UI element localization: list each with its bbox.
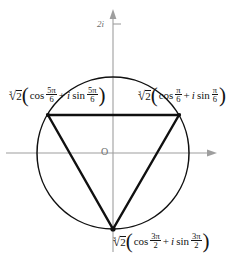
angle-denominator-bottom-cos: 2: [150, 241, 161, 250]
radical-sign-bottom: √: [113, 234, 120, 249]
angle-denominator-left-sin: 6: [87, 95, 98, 104]
cos-left: cos: [29, 90, 46, 101]
cube-root-radical-right: 3√2: [135, 89, 151, 102]
real-axis-arrowhead: [207, 150, 217, 157]
root-label-bottom: 3√2(cos3π2+isin3π2): [110, 232, 210, 251]
imaginary-axis-arrowhead: [110, 9, 117, 19]
plus-sign-bottom: +: [162, 236, 170, 247]
angle-denominator-bottom-sin: 2: [191, 241, 202, 250]
angle-denominator-right-cos: 6: [175, 95, 181, 104]
open-paren-bottom: (: [126, 234, 133, 249]
plus-sign-right: +: [183, 90, 191, 101]
radical-sign-left: √: [9, 88, 16, 103]
diagram-canvas: [0, 0, 241, 257]
sin-bottom: sin: [175, 236, 190, 247]
angle-fraction-right-sin: π6: [212, 86, 218, 105]
imaginary-axis-label: 2i: [97, 19, 104, 29]
cos-bottom: cos: [133, 236, 150, 247]
angle-fraction-bottom-cos: 3π2: [150, 232, 161, 251]
plus-sign-left: +: [58, 90, 66, 101]
open-paren-right: (: [151, 88, 158, 103]
angle-fraction-bottom-sin: 3π2: [191, 232, 202, 251]
origin-label: O: [101, 146, 108, 157]
angle-denominator-right-sin: 6: [212, 95, 218, 104]
root-label-left: 3√2(cos5π6+isin5π6): [6, 86, 106, 105]
angle-fraction-left-sin: 5π6: [87, 86, 98, 105]
close-paren-bottom: ): [203, 234, 210, 249]
angle-fraction-left-cos: 5π6: [46, 86, 57, 105]
complex-roots-diagram: 2i O 3√2(cos5π6+isin5π6) 3√2(cosπ6+isinπ…: [0, 0, 241, 257]
root-point-left: [46, 113, 50, 117]
open-paren-left: (: [22, 88, 29, 103]
root-point-bottom: [110, 226, 115, 231]
angle-fraction-right-cos: π6: [175, 86, 181, 105]
angle-denominator-left-cos: 6: [46, 95, 57, 104]
close-paren-left: ): [99, 88, 106, 103]
sin-left: sin: [71, 90, 86, 101]
cube-root-radical-left: 3√2: [6, 89, 22, 102]
cube-root-radical-bottom: 3√2: [110, 235, 126, 248]
cos-right: cos: [158, 90, 175, 101]
root-label-right: 3√2(cosπ6+isinπ6): [135, 86, 226, 105]
sin-right: sin: [196, 90, 211, 101]
root-point-right: [177, 113, 181, 117]
close-paren-right: ): [219, 88, 226, 103]
radical-sign-right: √: [138, 88, 145, 103]
